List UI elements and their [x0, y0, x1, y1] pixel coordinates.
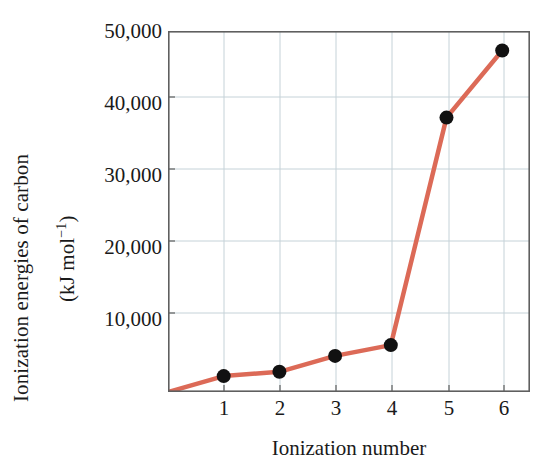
x-gridlines	[224, 31, 504, 392]
x-tick-label-6: 6	[484, 398, 524, 419]
data-point-5	[440, 111, 454, 125]
y-tick-label-30000: 30,000	[62, 165, 162, 186]
x-tick-label-2: 2	[260, 398, 300, 419]
y-axis-label-line-1: Ionization energies of carbon	[9, 154, 34, 402]
x-axis-label: Ionization number	[168, 436, 530, 461]
y-gridlines	[168, 97, 530, 313]
y-tick-label-40000: 40,000	[62, 93, 162, 114]
y-tick-label-50000: 50,000	[62, 21, 162, 42]
plot-area	[168, 31, 530, 392]
x-tick-label-4: 4	[372, 398, 412, 419]
ionization-energy-chart: Ionization energies of carbon (kJ mol−1)…	[0, 0, 558, 474]
data-point-2	[272, 365, 286, 379]
data-point-1	[217, 369, 231, 383]
data-point-4	[384, 338, 398, 352]
y-tick-label-20000: 20,000	[62, 237, 162, 258]
x-tick-label-5: 5	[429, 398, 469, 419]
y-tick-label-10000: 10,000	[62, 309, 162, 330]
x-axis-tick-labels: 1 2 3 4 5 6	[0, 398, 558, 438]
y-axis-tick-labels: 50,000 40,000 30,000 20,000 10,000	[58, 0, 162, 400]
x-tick-label-1: 1	[204, 398, 244, 419]
data-point-6	[495, 44, 509, 58]
x-tick-label-3: 3	[316, 398, 356, 419]
data-point-3	[328, 349, 342, 363]
plot-svg	[168, 31, 530, 392]
data-series-line	[168, 51, 502, 393]
